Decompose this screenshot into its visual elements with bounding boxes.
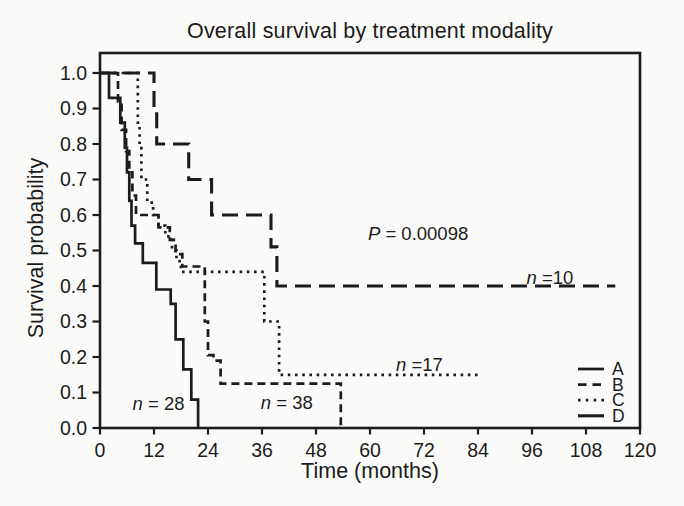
x-tick-label: 72	[413, 439, 435, 461]
x-tick-label: 12	[143, 439, 165, 461]
y-tick-label: 0.6	[60, 204, 87, 226]
y-tick-label: 0.9	[60, 97, 87, 119]
x-tick-label: 48	[305, 439, 327, 461]
y-tick-label: 0.5	[60, 239, 87, 261]
y-tick-label: 1.0	[60, 62, 87, 84]
y-tick-label: 0.3	[60, 310, 87, 332]
series-A-curve	[100, 73, 198, 428]
y-tick-label: 0.7	[60, 168, 87, 190]
y-tick-label: 0.4	[60, 275, 87, 297]
x-tick-label: 24	[197, 439, 219, 461]
x-tick-label: 120	[624, 439, 657, 461]
survival-plot: 1.00.90.80.70.60.50.40.30.20.10.00122436…	[0, 0, 684, 506]
x-tick-label: 108	[570, 439, 603, 461]
series-D-curve	[100, 73, 615, 286]
annotation-n-B: n = 38	[261, 392, 313, 413]
x-tick-label: 60	[359, 439, 381, 461]
y-axis-title: Survival probability	[24, 158, 49, 338]
annotation-p-value: P = 0.00098	[368, 223, 468, 244]
x-tick-label: 36	[251, 439, 273, 461]
y-tick-label: 0.2	[60, 346, 87, 368]
y-tick-label: 0.1	[60, 381, 87, 403]
x-tick-label: 0	[95, 439, 106, 461]
annotation-n-D: n =10	[527, 267, 574, 288]
chart-title: Overall survival by treatment modality	[100, 19, 640, 44]
y-tick-label: 0.0	[60, 417, 87, 439]
x-axis-title: Time (months)	[100, 459, 640, 484]
legend-label-D: D	[612, 406, 625, 426]
y-tick-label: 0.8	[60, 133, 87, 155]
x-tick-label: 84	[467, 439, 489, 461]
figure-container: 1.00.90.80.70.60.50.40.30.20.10.00122436…	[0, 0, 684, 506]
legend-item-D: D	[578, 406, 625, 426]
x-tick-label: 96	[521, 439, 543, 461]
annotation-n-A: n = 28	[133, 393, 185, 414]
annotation-n-C: n =17	[396, 354, 443, 375]
